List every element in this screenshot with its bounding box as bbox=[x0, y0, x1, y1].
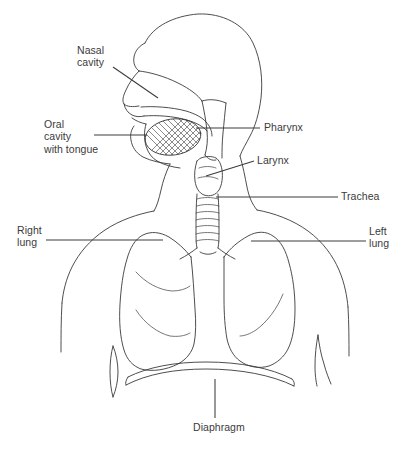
label-oral-cavity: Oral cavity with tongue bbox=[44, 118, 98, 155]
trachea-right-wall bbox=[218, 194, 219, 248]
trachea-left-wall bbox=[196, 194, 197, 248]
label-right-lung: Right lung bbox=[17, 224, 42, 249]
larynx-inner-fold bbox=[199, 167, 216, 169]
carina-underside bbox=[200, 252, 216, 254]
left-lung-fissure bbox=[240, 294, 283, 336]
head-outline-group bbox=[123, 14, 262, 164]
pharynx-roof bbox=[202, 100, 226, 103]
nose-bridge-profile bbox=[123, 71, 139, 107]
armpit-left-fold bbox=[110, 346, 113, 397]
mouth-floor bbox=[145, 124, 158, 161]
right-lung-outline bbox=[120, 233, 196, 371]
torso-right-edge bbox=[348, 307, 349, 356]
larynx-group bbox=[195, 157, 223, 196]
skull-outline bbox=[145, 14, 262, 156]
larynx-vocal-line bbox=[198, 177, 218, 179]
torso-left-edge bbox=[61, 303, 62, 352]
label-pharynx: Pharynx bbox=[264, 121, 303, 133]
diaphragm-lower-arc bbox=[126, 369, 294, 386]
neck-shoulder-group bbox=[61, 156, 349, 397]
chin-jaw-profile bbox=[131, 126, 170, 164]
label-diaphragm: Diaphragm bbox=[193, 421, 245, 433]
label-nasal-cavity: Nasal cavity bbox=[77, 44, 104, 69]
right-lung-fissure-upper bbox=[136, 272, 190, 291]
leader-nasal-cavity bbox=[113, 67, 158, 98]
forehead-brow-line bbox=[134, 43, 145, 71]
armpit-left-fold-inner bbox=[113, 346, 118, 397]
trachea-cartilage-rings bbox=[196, 198, 219, 242]
trachea-group bbox=[180, 194, 235, 259]
armpit-right-fold bbox=[318, 335, 331, 384]
neck-front-edge bbox=[154, 164, 170, 211]
left-lung-group bbox=[224, 232, 295, 367]
upper-lip-line bbox=[132, 118, 146, 124]
left-lung-outline bbox=[224, 232, 295, 367]
nasal-cavity-roof bbox=[139, 71, 202, 101]
figure-caption-cropped bbox=[0, 444, 413, 454]
pharynx-posterior-wall bbox=[222, 103, 226, 158]
label-larynx: Larynx bbox=[257, 154, 289, 166]
label-left-lung: Left lung bbox=[369, 225, 389, 250]
right-lung-group bbox=[120, 233, 196, 371]
right-lung-fissure-lower bbox=[136, 310, 190, 336]
armpit-right-fold-inner bbox=[315, 335, 318, 386]
respiratory-system-figure: Nasal cavity Oral cavity with tongue Pha… bbox=[0, 0, 413, 454]
anatomy-drawing bbox=[0, 0, 413, 454]
shoulder-left-contour bbox=[62, 211, 154, 303]
label-trachea: Trachea bbox=[341, 190, 379, 202]
leader-larynx bbox=[206, 161, 254, 176]
shoulder-right-contour bbox=[257, 210, 348, 307]
larynx-outline bbox=[195, 157, 223, 196]
